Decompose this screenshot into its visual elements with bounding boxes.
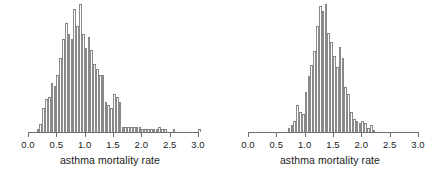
x-tick-label-0.0: 0.0: [21, 139, 35, 150]
x-tick-label-1.5: 1.5: [106, 139, 120, 150]
right-plot-area: [220, 4, 440, 132]
x-tick-1.5: [333, 132, 334, 137]
x-tick-label-2.0: 2.0: [135, 139, 149, 150]
x-tick-label-2.0: 2.0: [355, 139, 369, 150]
x-tick-2.5: [170, 132, 171, 137]
x-tick-label-0.5: 0.5: [50, 139, 64, 150]
x-tick-1.0: [305, 132, 306, 137]
x-tick-label-0.0: 0.0: [241, 139, 255, 150]
x-tick-1.5: [113, 132, 114, 137]
right-histogram-panel: 0.00.51.01.52.02.53.0 asthma mortality r…: [220, 0, 440, 178]
two-panel-histogram-figure: 0.00.51.01.52.02.53.0 asthma mortality r…: [0, 0, 440, 178]
x-tick-0.0: [248, 132, 249, 137]
x-tick-0.5: [276, 132, 277, 137]
x-tick-label-1.5: 1.5: [326, 139, 340, 150]
right-x-axis-label: asthma mortality rate: [220, 154, 440, 166]
x-tick-1.0: [85, 132, 86, 137]
x-tick-label-1.0: 1.0: [78, 139, 92, 150]
x-tick-2.0: [361, 132, 362, 137]
x-tick-3.0: [418, 132, 419, 137]
left-histogram-panel: 0.00.51.01.52.02.53.0 asthma mortality r…: [0, 0, 220, 178]
x-tick-label-2.5: 2.5: [163, 139, 177, 150]
x-tick-0.5: [56, 132, 57, 137]
right-histogram-bars: [220, 4, 440, 132]
x-tick-3.0: [198, 132, 199, 137]
x-tick-label-0.5: 0.5: [270, 139, 284, 150]
left-histogram-bars: [0, 4, 220, 132]
x-tick-label-3.0: 3.0: [191, 139, 205, 150]
x-tick-label-1.0: 1.0: [298, 139, 312, 150]
x-tick-0.0: [28, 132, 29, 137]
x-tick-2.5: [390, 132, 391, 137]
left-plot-area: [0, 4, 220, 132]
x-tick-2.0: [141, 132, 142, 137]
left-x-axis-label: asthma mortality rate: [0, 154, 220, 166]
x-tick-label-3.0: 3.0: [411, 139, 425, 150]
x-tick-label-2.5: 2.5: [383, 139, 397, 150]
